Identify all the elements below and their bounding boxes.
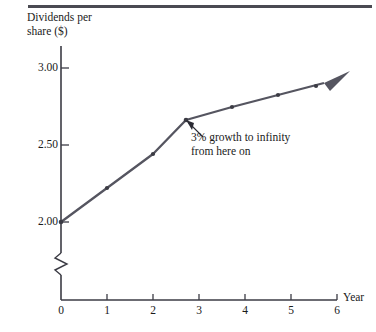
y-tick-label-2.50: 2.50 <box>18 138 58 150</box>
chart-annotation: 3% growth to infinity from here on <box>191 131 290 158</box>
y-tick-label-3.00: 3.00 <box>18 61 58 73</box>
y-tick-label-2.00: 2.00 <box>18 215 58 227</box>
data-point-marker <box>230 105 234 109</box>
line-end-arrowhead <box>324 71 350 91</box>
y-axis-break-icon <box>55 253 67 275</box>
data-point-marker <box>59 220 64 225</box>
x-tick-label-5: 5 <box>281 304 301 316</box>
x-tick-label-6: 6 <box>327 304 347 316</box>
data-point-marker <box>276 93 280 97</box>
data-point-marker <box>314 84 318 88</box>
x-tick-label-3: 3 <box>189 304 209 316</box>
x-tick-label-1: 1 <box>97 304 117 316</box>
data-line-perpetuity-phase <box>186 83 324 120</box>
x-tick-label-2: 2 <box>143 304 163 316</box>
x-tick-label-0: 0 <box>51 304 71 316</box>
data-line-growth-phase <box>61 120 186 222</box>
x-tick-label-4: 4 <box>235 304 255 316</box>
x-axis-title: Year <box>343 291 364 303</box>
annotation-arrowhead <box>186 120 194 130</box>
data-point-marker <box>105 186 109 190</box>
data-point-marker <box>151 152 155 156</box>
chart-canvas <box>0 0 376 332</box>
